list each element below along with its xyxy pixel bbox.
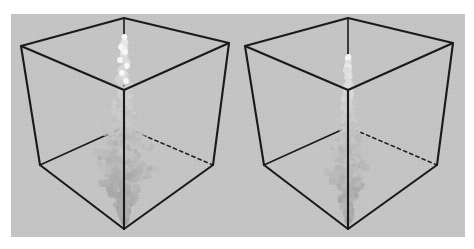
particle — [103, 151, 110, 158]
particle — [134, 156, 140, 162]
particle-bright — [118, 44, 124, 50]
particle — [111, 109, 117, 115]
particle — [141, 163, 148, 170]
particle — [350, 191, 355, 196]
particle — [113, 94, 120, 101]
particle — [350, 121, 357, 128]
particle — [339, 184, 344, 189]
particle — [101, 126, 108, 133]
particle — [109, 174, 116, 181]
figure-root — [0, 0, 474, 249]
particle-bright — [117, 57, 123, 63]
right-panel-edge-bottom-front-right — [348, 165, 437, 229]
particle — [116, 169, 122, 175]
particle — [354, 147, 361, 154]
particle — [355, 135, 362, 142]
particle-bright — [123, 78, 129, 84]
particle — [113, 140, 119, 146]
left-panel-edge-vertical-left — [21, 46, 40, 165]
right-panel-edge-vertical-right — [437, 43, 453, 165]
right-panel-particle-plume — [323, 54, 370, 225]
left-panel-particle-plume — [93, 34, 159, 226]
particle — [135, 132, 141, 138]
particle — [129, 117, 135, 123]
particle-bright — [119, 70, 125, 76]
right-panel-edge-top-back-left — [245, 18, 348, 46]
particle — [338, 152, 346, 160]
particle — [344, 212, 350, 218]
particle — [136, 141, 140, 145]
particle — [143, 170, 150, 177]
particle — [346, 79, 353, 86]
right-panel — [245, 18, 453, 229]
particle — [338, 139, 344, 145]
particle — [116, 192, 123, 199]
particle-bright — [346, 54, 352, 60]
particle — [138, 176, 144, 182]
right-panel-edge-top-back-right — [348, 18, 453, 43]
particle — [133, 184, 140, 191]
particle — [144, 142, 151, 149]
particle — [126, 197, 131, 202]
particle — [131, 191, 137, 197]
particle — [351, 196, 357, 202]
right-panel-edge-top-front-left — [245, 46, 348, 90]
particle — [96, 160, 102, 166]
particle — [106, 159, 112, 165]
particle — [116, 104, 120, 108]
particle — [133, 149, 138, 154]
particle — [343, 67, 349, 73]
particle — [332, 141, 339, 148]
particle — [127, 122, 131, 126]
left-panel-edge-top-front-right — [124, 43, 229, 90]
particle — [132, 111, 136, 115]
particle — [343, 132, 347, 136]
particle — [126, 144, 130, 148]
particle — [133, 123, 137, 127]
left-panel-edge-vertical-right — [213, 43, 229, 165]
particle — [111, 156, 118, 163]
particle — [116, 120, 120, 124]
particle — [128, 105, 133, 110]
particle — [351, 187, 355, 191]
particle — [130, 157, 134, 161]
right-panel-edge-vertical-left — [245, 46, 264, 165]
particle — [125, 173, 133, 181]
particle — [118, 137, 122, 141]
left-panel-edge-top-back-right — [124, 18, 229, 43]
right-panel-edge-top-front-right — [348, 43, 453, 90]
left-panel — [21, 18, 229, 229]
left-panel-edge-top-back-left — [21, 18, 124, 46]
particle — [337, 146, 342, 151]
particle-bright — [122, 34, 128, 40]
particle — [349, 129, 356, 136]
cube-scene-svg — [0, 0, 474, 249]
particle — [93, 148, 100, 155]
particle — [360, 183, 365, 188]
particle-bright — [124, 63, 130, 69]
particle — [98, 180, 105, 187]
particle — [362, 164, 370, 172]
particle — [118, 112, 123, 117]
particle — [107, 128, 114, 135]
particle — [97, 155, 102, 160]
particle — [336, 176, 340, 180]
particle-bright — [122, 49, 128, 55]
particle — [152, 166, 159, 173]
particle — [361, 152, 367, 158]
particle — [108, 190, 116, 198]
particle — [355, 182, 361, 188]
particle — [135, 171, 140, 176]
particle — [355, 193, 359, 197]
particle — [104, 167, 112, 175]
left-panel-edge-top-front-left — [21, 46, 124, 90]
particle — [334, 170, 341, 177]
particle — [117, 125, 124, 132]
